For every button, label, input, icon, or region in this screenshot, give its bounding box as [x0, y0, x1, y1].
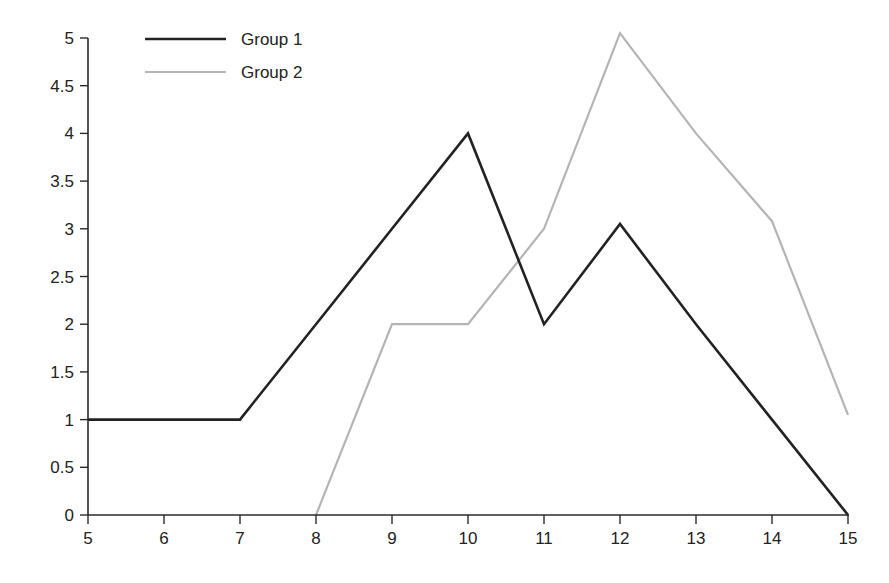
x-tick-label: 10	[459, 529, 478, 548]
y-tick-label: 4.5	[50, 77, 74, 96]
legend: Group 1 Group 2	[145, 30, 302, 82]
y-tick-label: 0.5	[50, 458, 74, 477]
axes: 00.511.522.533.544.55 56789101112131415	[50, 29, 857, 548]
x-tick-label: 13	[687, 529, 706, 548]
y-tick-label: 3	[65, 220, 74, 239]
y-tick-label: 1.5	[50, 363, 74, 382]
x-tick-label: 12	[611, 529, 630, 548]
y-tick-label: 4	[65, 124, 74, 143]
x-ticks: 56789101112131415	[83, 515, 857, 548]
x-tick-label: 5	[83, 529, 92, 548]
y-tick-label: 0	[65, 506, 74, 525]
legend-label-group-2: Group 2	[241, 63, 302, 82]
x-tick-label: 14	[763, 529, 782, 548]
x-tick-label: 6	[159, 529, 168, 548]
y-tick-label: 3.5	[50, 172, 74, 191]
y-tick-label: 5	[65, 29, 74, 48]
y-tick-label: 1	[65, 411, 74, 430]
y-tick-label: 2	[65, 315, 74, 334]
line-chart: 00.511.522.533.544.55 56789101112131415 …	[0, 0, 889, 583]
x-tick-label: 9	[387, 529, 396, 548]
x-tick-label: 8	[311, 529, 320, 548]
x-tick-label: 11	[535, 529, 553, 548]
y-tick-label: 2.5	[50, 268, 74, 287]
x-tick-label: 15	[839, 529, 858, 548]
plot-series	[88, 33, 848, 515]
x-tick-label: 7	[235, 529, 244, 548]
y-ticks: 00.511.522.533.544.55	[50, 29, 88, 525]
legend-label-group-1: Group 1	[241, 30, 302, 49]
